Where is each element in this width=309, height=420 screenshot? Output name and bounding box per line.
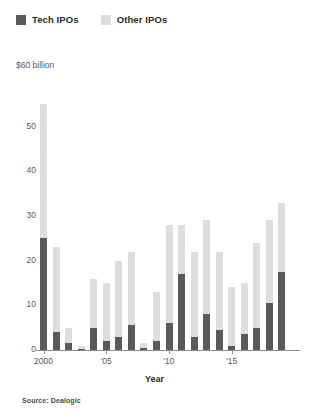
bar-segment-tech-ipos [128, 325, 135, 350]
bar-group [115, 261, 122, 350]
y-axis-tick-label: 10 [2, 300, 36, 309]
bar-segment-tech-ipos [90, 328, 97, 350]
bar-group [191, 252, 198, 350]
bar-group [103, 283, 110, 350]
bar-group [178, 225, 185, 350]
bar-segment-other-ipos [103, 283, 110, 350]
bar-group [90, 279, 97, 350]
bar-group [53, 247, 60, 350]
x-axis-tick-label: '10 [149, 356, 189, 366]
bar-segment-tech-ipos [103, 341, 110, 350]
source-note: Source: Dealogic [22, 397, 81, 404]
bar-segment-tech-ipos [178, 274, 185, 350]
y-axis-tick-label: 50 [2, 122, 36, 131]
x-axis-tick-label: '05 [86, 356, 126, 366]
bar-segment-tech-ipos [278, 272, 285, 350]
bar-segment-tech-ipos [115, 337, 122, 350]
bar-group [228, 287, 235, 350]
x-axis-tick [169, 350, 170, 354]
bar-segment-tech-ipos [253, 328, 260, 350]
y-axis-tick-label: 20 [2, 256, 36, 265]
bar-segment-tech-ipos [241, 334, 248, 350]
bar-segment-tech-ipos [191, 337, 198, 350]
bar-segment-tech-ipos [65, 343, 72, 350]
bar-segment-tech-ipos [216, 330, 223, 350]
bar-segment-tech-ipos [53, 332, 60, 350]
bar-group [203, 220, 210, 350]
x-axis-tick-label: '15 [212, 356, 252, 366]
bar-group [40, 104, 47, 350]
chart-plot-area [40, 82, 298, 350]
x-axis-title: Year [0, 374, 309, 384]
bar-group [266, 220, 273, 350]
bar-group [253, 243, 260, 350]
y-axis-tick-label: 0 [2, 345, 36, 354]
bar-segment-tech-ipos [40, 238, 47, 350]
bar-group [278, 203, 285, 350]
bar-group [216, 252, 223, 350]
y-axis-tick-label: 40 [2, 166, 36, 175]
bar-group [140, 343, 147, 350]
bar-group [241, 283, 248, 350]
x-axis-tick [44, 350, 45, 354]
bar-series-container [40, 82, 298, 350]
bar-group [153, 292, 160, 350]
bar-group [65, 328, 72, 350]
bar-segment-tech-ipos [203, 314, 210, 350]
bar-segment-other-ipos [191, 252, 198, 350]
y-axis-tick-label: 30 [2, 211, 36, 220]
chart-plot-frame: 01020304050 2000'05'10'15 [0, 0, 309, 420]
bar-group [166, 225, 173, 350]
bar-segment-tech-ipos [153, 341, 160, 350]
x-axis-tick [232, 350, 233, 354]
x-axis-tick [106, 350, 107, 354]
bar-segment-tech-ipos [266, 303, 273, 350]
bar-group [128, 252, 135, 350]
x-axis-tick-label: 2000 [24, 356, 64, 366]
x-axis-line [36, 350, 300, 351]
bar-segment-other-ipos [228, 287, 235, 350]
bar-segment-tech-ipos [166, 323, 173, 350]
